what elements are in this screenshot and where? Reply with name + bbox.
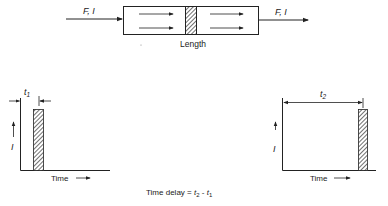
injection-plot: t1 I Time: [9, 87, 110, 183]
tracer-pulse: [359, 110, 368, 171]
flow-pipe-diagram: F, I F, I Length: [66, 6, 308, 49]
y-axis-label: I: [273, 144, 276, 154]
length-label: Length: [180, 39, 206, 49]
outlet-label: F, I: [275, 7, 287, 17]
x-axis-label: Time: [310, 174, 328, 183]
inlet-label: F, I: [83, 6, 95, 16]
detection-plot: t2 I Time: [273, 89, 376, 183]
time-delay-caption: Time delay = t2 - t1: [146, 188, 213, 198]
tracer-pulse: [34, 110, 44, 171]
stray-dot: [140, 44, 141, 45]
x-axis-label: Time: [51, 174, 69, 183]
t2-label: t2: [320, 89, 327, 100]
t1-label: t1: [24, 87, 31, 98]
tracer-time-delay-diagram: F, I F, I Length t1 I Time: [0, 0, 388, 206]
tracer-slug: [186, 7, 197, 35]
y-axis-label: I: [11, 142, 14, 152]
